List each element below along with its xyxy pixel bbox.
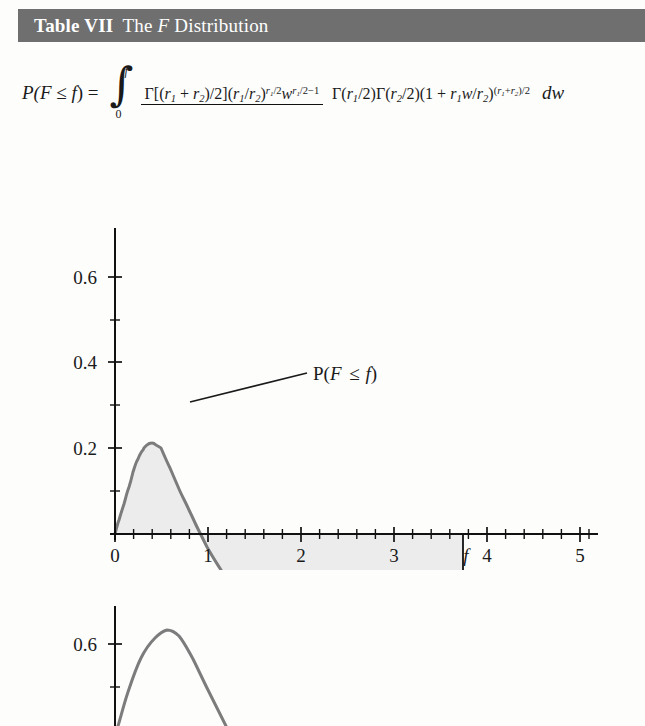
- table-title-variable: F: [158, 15, 170, 36]
- fraction-numerator: Γ[(r1 + r2)/2](r1/r2)r1/2wr1/2−1: [141, 85, 324, 105]
- formula-fraction: Γ[(r1 + r2)/2](r1/r2)r1/2wr1/2−1 Γ(r1/2)…: [141, 82, 534, 104]
- y-axis-label-0.2: 0.2: [73, 438, 97, 459]
- probability-annotation: P(F ≤ f): [313, 363, 377, 385]
- x-axis-label-5: 5: [575, 545, 585, 566]
- table-number-label: Table VII: [34, 15, 113, 36]
- x-axis-label-1: 1: [203, 545, 213, 566]
- integral-glyph-icon: ∫: [110, 61, 134, 107]
- integral-lower-limit: 0: [116, 107, 122, 122]
- formula-left-hand-side: P(F ≤ f) =: [22, 82, 99, 104]
- f-distribution-chart: 0.6 0.4 0.2: [0, 210, 645, 570]
- table-header-bar: Table VIIThe F Distribution: [18, 9, 645, 42]
- y-axis-label-0.4: 0.4: [73, 352, 97, 373]
- distribution-formula: P(F ≤ f) = ∫ f 0 Γ[(r1 + r2)/2](r1/r2)r1…: [22, 62, 642, 124]
- integral-upper-limit: f: [125, 64, 128, 79]
- x-axis-label-3: 3: [389, 545, 399, 566]
- table-title-suffix: Distribution: [169, 15, 268, 36]
- second-distribution-svg: 0.6: [0, 576, 645, 726]
- f-marker-label: f: [463, 545, 471, 566]
- f-distribution-svg: 0.6 0.4 0.2: [0, 210, 645, 570]
- table-header-text: Table VIIThe F Distribution: [18, 15, 269, 37]
- differential-term: dw: [542, 82, 564, 104]
- y-axis-label-0.6-chart2: 0.6: [73, 634, 97, 655]
- y-axis-label-0.6: 0.6: [73, 267, 97, 288]
- integral-symbol: ∫ f 0: [108, 66, 134, 120]
- table-title-prefix: The: [122, 15, 157, 36]
- table-page: Table VIIThe F Distribution P(F ≤ f) = ∫…: [0, 0, 645, 726]
- x-axis-label-4: 4: [482, 545, 492, 566]
- x-axis-label-0: 0: [110, 545, 120, 566]
- annotation-leader-line: [190, 373, 307, 402]
- second-distribution-chart: 0.6: [0, 576, 645, 726]
- table-title: The F Distribution: [122, 15, 268, 36]
- density-curve-2: [118, 630, 226, 726]
- x-axis-label-2: 2: [296, 545, 306, 566]
- fraction-denominator: Γ(r1/2)Γ(r2/2)(1 + r1w/r2)(r1+r2)/2: [328, 82, 534, 102]
